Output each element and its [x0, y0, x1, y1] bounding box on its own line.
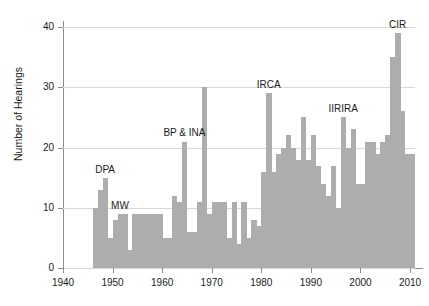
x-tick-label-1960: 1960: [142, 277, 182, 288]
x-tick-mark-1980: [261, 268, 262, 273]
annotation-bp-ina: BP & INA: [144, 127, 224, 138]
plot-area: [63, 21, 415, 268]
x-tick-label-1980: 1980: [241, 277, 281, 288]
annotation-dpa: DPA: [65, 164, 145, 175]
x-tick-label-1990: 1990: [291, 277, 331, 288]
annotation-iirira: IIRIRA: [303, 103, 383, 114]
annotation-irca: IRCA: [229, 79, 309, 90]
gridline-y-0: [63, 268, 415, 269]
x-tick-mark-2000: [360, 268, 361, 273]
x-tick-label-1940: 1940: [43, 277, 83, 288]
x-tick-mark-1940: [63, 268, 64, 273]
x-tick-mark-1970: [212, 268, 213, 273]
y-tick-label-30: 30: [28, 82, 54, 92]
annotation-cir: CIR: [358, 19, 429, 30]
y-tick-label-0: 0: [28, 263, 54, 273]
hearings-bar-chart: Number of Hearings 010203040 19401950196…: [0, 0, 429, 306]
x-tick-mark-1960: [162, 268, 163, 273]
x-tick-mark-1950: [113, 268, 114, 273]
y-axis-title: Number of Hearings: [12, 44, 24, 184]
y-tick-label-20: 20: [28, 143, 54, 153]
x-tick-label-1950: 1950: [93, 277, 133, 288]
gridline-y-20: [63, 148, 415, 149]
x-tick-label-2000: 2000: [340, 277, 380, 288]
x-tick-label-1970: 1970: [192, 277, 232, 288]
bar-2010: [410, 154, 415, 268]
x-tick-mark-1990: [311, 268, 312, 273]
annotation-mw: MW: [80, 200, 160, 211]
x-tick-mark-2010: [410, 268, 411, 273]
x-tick-label-2010: 2010: [390, 277, 429, 288]
y-tick-label-40: 40: [28, 22, 54, 32]
y-tick-label-10: 10: [28, 203, 54, 213]
